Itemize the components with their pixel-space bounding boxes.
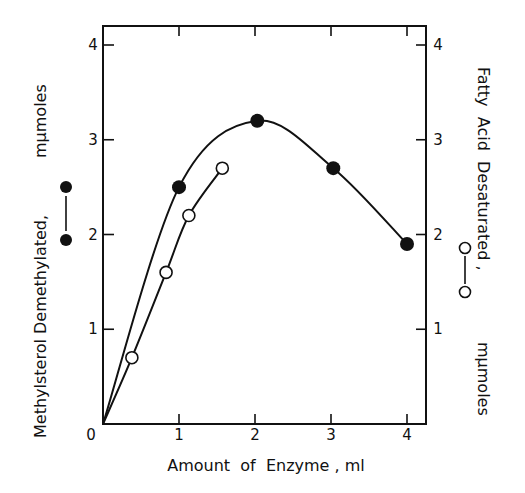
filled-circle-marker	[326, 161, 340, 175]
axis-ticks	[103, 26, 426, 424]
open-circle-marker	[183, 210, 195, 222]
x-tick-label: 2	[250, 426, 260, 444]
demethylation-curve	[103, 121, 407, 424]
legend-filled-marker-top	[60, 181, 72, 193]
legend-open-marker-bottom	[460, 287, 471, 298]
data-markers	[126, 114, 414, 364]
enzyme-chart: 123411223344 0 Amount of Enzyme , ml Met…	[0, 0, 525, 493]
open-circle-marker	[216, 162, 228, 174]
y-tick-label-right: 3	[433, 131, 443, 149]
right-axis-label-group: Fatty Acid Desaturated , mμmoles	[474, 67, 493, 416]
left-axis-label-group: Methylsterol Demethylated, mμmoles	[31, 84, 50, 438]
x-axis-label: Amount of Enzyme , ml	[167, 456, 364, 475]
x-tick-label: 3	[326, 426, 336, 444]
left-axis-label: Methylsterol Demethylated,	[31, 215, 50, 438]
plot-frame	[103, 26, 426, 424]
y-tick-label-left: 1	[88, 320, 98, 338]
open-circle-marker	[126, 352, 138, 364]
filled-circle-marker	[250, 114, 264, 128]
y-tick-label-left: 4	[88, 36, 98, 54]
y-tick-label-left: 3	[88, 131, 98, 149]
axis-tick-labels: 123411223344	[88, 36, 443, 444]
legend-open-circle	[460, 243, 471, 298]
y-tick-label-right: 2	[433, 226, 443, 244]
filled-circle-marker	[400, 237, 414, 251]
y-tick-label-right: 1	[433, 320, 443, 338]
filled-circle-marker	[172, 180, 186, 194]
right-axis-label: Fatty Acid Desaturated ,	[474, 67, 493, 271]
legend-filled-circle	[60, 181, 72, 246]
x-tick-label: 4	[402, 426, 412, 444]
right-axis-units: mμmoles	[474, 342, 493, 416]
origin-label: 0	[86, 426, 96, 444]
open-circle-marker	[160, 266, 172, 278]
left-axis-units: mμmoles	[31, 84, 50, 158]
legend-filled-marker-bottom	[60, 234, 72, 246]
x-tick-label: 1	[174, 426, 184, 444]
legend-open-marker-top	[460, 243, 471, 254]
y-tick-label-left: 2	[88, 226, 98, 244]
y-tick-label-right: 4	[433, 36, 443, 54]
desaturation-curve	[103, 168, 222, 424]
